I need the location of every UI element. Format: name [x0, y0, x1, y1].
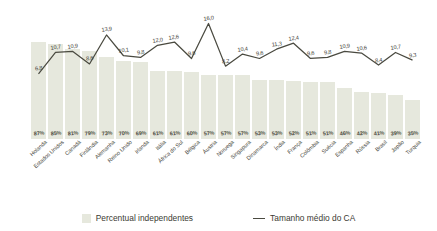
bar: 57%: [235, 75, 250, 139]
bar: 42%: [354, 92, 369, 139]
bar-item: 57%: [234, 6, 251, 139]
bar: 79%: [82, 51, 97, 139]
bar-value-label: 39%: [390, 129, 401, 136]
bar-item: 87%: [30, 6, 47, 139]
bar-value-label: 42%: [356, 129, 367, 136]
category-label: Índia: [273, 139, 286, 151]
bar-value-label: 51%: [322, 129, 333, 136]
bar: 61%: [150, 71, 165, 139]
bar-value-label: 41%: [373, 129, 384, 136]
bar-item: 51%: [319, 6, 336, 139]
bar-value-label: 35%: [407, 129, 418, 136]
category-label: Estados Unidos: [32, 139, 65, 169]
bar: 87%: [31, 42, 46, 139]
bar: 35%: [405, 100, 420, 139]
category-label: Turquia: [404, 139, 422, 156]
bar-item: 53%: [251, 6, 268, 139]
bar-value-label: 52%: [288, 129, 299, 136]
bar: 73%: [99, 57, 114, 139]
bar-value-label: 57%: [220, 129, 231, 136]
legend-label-bars: Percentual independentes: [96, 213, 193, 223]
bar-value-label: 69%: [135, 129, 146, 136]
bar-value-label: 79%: [84, 129, 95, 136]
bar-item: 53%: [268, 6, 285, 139]
bar-value-label: 85%: [50, 129, 61, 136]
category-label: Bélgica: [183, 139, 200, 156]
bar: 57%: [201, 75, 216, 139]
bar: 52%: [286, 81, 301, 139]
bar-value-label: 87%: [33, 129, 44, 136]
bar-item: 39%: [387, 6, 404, 139]
bar-item: 61%: [166, 6, 183, 139]
category-label: Brasil: [373, 139, 387, 153]
bar-value-label: 73%: [101, 129, 112, 136]
bar-value-label: 53%: [271, 129, 282, 136]
bar-item: 81%: [64, 6, 81, 139]
bar-item: 51%: [302, 6, 319, 139]
bar-value-label: 53%: [254, 129, 265, 136]
bar: 81%: [65, 49, 80, 139]
legend-swatch-icon: [82, 214, 91, 223]
bar: 41%: [371, 93, 386, 139]
bar: 51%: [303, 82, 318, 139]
bar: 51%: [320, 82, 335, 139]
legend-item-line: Tamanho médio do CA: [253, 213, 355, 223]
bar-item: 73%: [98, 6, 115, 139]
bar: 85%: [48, 44, 63, 139]
bar-value-label: 51%: [305, 129, 316, 136]
bar-value-label: 57%: [203, 129, 214, 136]
category-axis: HolandaEstados UnidosCanadáFinlândiaAlem…: [30, 139, 421, 194]
bar-item: 57%: [217, 6, 234, 139]
bar: 53%: [252, 80, 267, 139]
bar-item: 69%: [132, 6, 149, 139]
bar-item: 35%: [404, 6, 421, 139]
category-label: Irlanda: [133, 139, 149, 155]
bar-value-label: 46%: [339, 129, 350, 136]
bar-value-label: 61%: [169, 129, 180, 136]
bar-item: 60%: [183, 6, 200, 139]
bar-value-label: 57%: [237, 129, 248, 136]
bar-item: 70%: [115, 6, 132, 139]
bar-value-label: 70%: [118, 129, 129, 136]
bar: 57%: [218, 75, 233, 139]
category-label: Rússia: [354, 139, 371, 155]
plot-area: 87%85%81%79%73%70%69%61%61%60%57%57%57%5…: [30, 6, 421, 139]
bar-value-label: 81%: [67, 129, 78, 136]
bar-item: 46%: [336, 6, 353, 139]
bar-value-label: 60%: [186, 129, 197, 136]
legend-label-line: Tamanho médio do CA: [270, 213, 355, 223]
category-label: Itália: [154, 139, 167, 151]
bar-item: 79%: [81, 6, 98, 139]
bar-item: 61%: [149, 6, 166, 139]
bar-item: 57%: [200, 6, 217, 139]
category-label: Japão: [389, 139, 404, 153]
bar: 69%: [133, 62, 148, 139]
bar-item: 52%: [285, 6, 302, 139]
chart-legend: Percentual independentes Tamanho médio d…: [0, 213, 437, 223]
chart-container: 87%85%81%79%73%70%69%61%61%60%57%57%57%5…: [0, 0, 437, 231]
bar: 53%: [269, 80, 284, 139]
bar: 60%: [184, 72, 199, 139]
bar: 70%: [116, 61, 131, 139]
bar-item: 42%: [353, 6, 370, 139]
bar-value-label: 61%: [152, 129, 163, 136]
legend-line-icon: [253, 218, 265, 219]
legend-item-bars: Percentual independentes: [82, 213, 193, 223]
bar: 46%: [337, 88, 352, 139]
bar-item: 85%: [47, 6, 64, 139]
bar: 39%: [388, 95, 403, 139]
bar-series: 87%85%81%79%73%70%69%61%61%60%57%57%57%5…: [30, 6, 421, 139]
bar-item: 41%: [370, 6, 387, 139]
bar: 61%: [167, 71, 182, 139]
